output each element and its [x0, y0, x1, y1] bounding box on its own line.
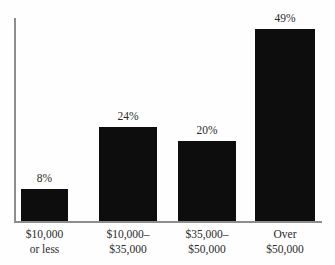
category-label-line: $50,000 — [255, 242, 315, 257]
bar-group: 20% — [178, 141, 236, 221]
bar-value-label: 24% — [117, 111, 138, 123]
bar-chart: 8%24%20%49% $10,000or less$10,000–$35,00… — [0, 0, 335, 265]
category-label: $35,000–$50,000 — [178, 227, 236, 257]
bar-value-label: 49% — [274, 13, 295, 25]
category-label-line: $35,000– — [178, 227, 236, 242]
bar-group: 24% — [99, 127, 157, 221]
category-label: Over$50,000 — [255, 227, 315, 257]
category-label-line: $10,000 — [21, 227, 68, 242]
category-label-line: Over — [255, 227, 315, 242]
plot-area: 8%24%20%49% — [0, 0, 335, 223]
bar-value-label: 20% — [196, 125, 217, 137]
bar-group: 49% — [255, 29, 315, 221]
bar — [99, 127, 157, 221]
category-label: $10,000or less — [21, 227, 68, 257]
category-label-line: $10,000– — [99, 227, 157, 242]
category-label: $10,000–$35,000 — [99, 227, 157, 257]
bar — [178, 141, 236, 221]
bar-group: 8% — [21, 189, 68, 221]
bar — [21, 189, 68, 221]
category-label-line: $50,000 — [178, 242, 236, 257]
bar-value-label: 8% — [37, 173, 52, 185]
category-label-line: $35,000 — [99, 242, 157, 257]
category-label-line: or less — [21, 242, 68, 257]
bar — [255, 29, 315, 221]
